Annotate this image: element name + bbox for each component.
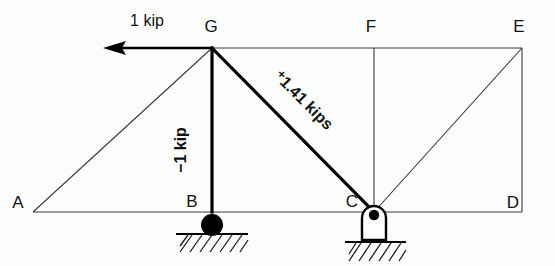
node-label-D: D bbox=[507, 193, 519, 212]
truss-diagram-canvas: A B C D E F G 1 kip −1 kip ⁺1.41 kips bbox=[0, 0, 555, 266]
force-labels-group: 1 kip −1 kip ⁺1.41 kips bbox=[130, 12, 337, 173]
node-label-C: C bbox=[346, 192, 358, 211]
member-diagonal-GC bbox=[212, 48, 374, 212]
node-label-F: F bbox=[366, 17, 376, 36]
roller-ball-icon bbox=[201, 214, 223, 236]
applied-load-label: 1 kip bbox=[130, 12, 164, 29]
node-label-G: G bbox=[204, 17, 217, 36]
pin-hole-icon bbox=[369, 210, 379, 220]
members-bold-group bbox=[212, 48, 374, 212]
member-force-label-BG: −1 kip bbox=[172, 127, 189, 173]
applied-load-arrow bbox=[103, 41, 212, 55]
support-c-pin bbox=[345, 206, 406, 261]
node-label-E: E bbox=[513, 17, 524, 36]
support-b-roller bbox=[176, 214, 248, 252]
support-b-hatching bbox=[180, 235, 248, 252]
node-label-B: B bbox=[186, 192, 197, 211]
member-force-label-GC: ⁺1.41 kips bbox=[271, 67, 337, 133]
support-c-hatching bbox=[349, 243, 406, 261]
node-label-A: A bbox=[12, 193, 24, 212]
node-labels-group: A B C D E F G bbox=[12, 17, 524, 212]
member-diagonal-CE bbox=[374, 48, 522, 212]
truss-svg: A B C D E F G 1 kip −1 kip ⁺1.41 kips bbox=[0, 0, 555, 266]
